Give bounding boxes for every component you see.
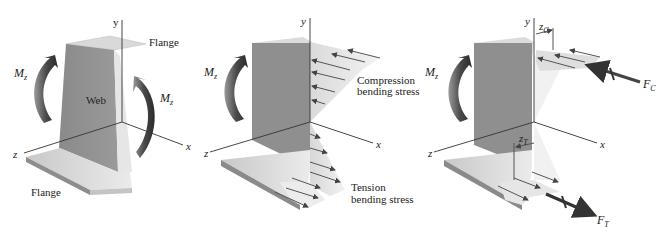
x-axis-label: x	[599, 138, 605, 150]
flange-top-label: Flange	[149, 36, 179, 48]
z-axis-label: z	[203, 147, 209, 159]
fc-force-arrow-icon	[590, 66, 640, 82]
moment-arrow-icon	[224, 55, 248, 122]
bending-stress-diagram: y x z Flange Flange Web Mz Mz	[0, 0, 665, 239]
x-axis-line	[310, 122, 373, 143]
web-block-shape	[252, 43, 310, 168]
moment-left-arrow-icon	[34, 55, 58, 123]
tension-stress-wedge	[310, 122, 345, 196]
ft-force-arrow-icon	[546, 194, 592, 214]
moment-right-label: Mz	[159, 91, 174, 107]
moment-right-arrow-icon	[133, 76, 155, 158]
flange-bottom-label: Flange	[31, 186, 61, 198]
compression-label-line2: bending stress	[357, 85, 420, 97]
stress-region-faint	[534, 55, 565, 180]
web-block-shape	[474, 43, 532, 168]
moment-label: Mz	[424, 65, 439, 81]
x-axis-line	[534, 122, 597, 143]
tension-label-line2: bending stress	[351, 193, 414, 205]
fc-label: FC	[642, 77, 656, 93]
panel-3-labels: y x z Mz zC zT FC FT	[424, 15, 656, 229]
moment-arrow-icon	[448, 55, 472, 122]
x-axis-label: x	[185, 140, 191, 152]
y-axis-label: y	[524, 15, 530, 27]
y-axis-label: y	[113, 16, 119, 28]
x-axis-label: x	[375, 138, 381, 150]
panel-3-beam-geometry	[434, 18, 640, 214]
moment-left-label: Mz	[13, 66, 28, 82]
y-axis-label: y	[300, 15, 306, 27]
tension-label-line1: Tension	[351, 181, 386, 193]
moment-label: Mz	[203, 65, 218, 81]
ft-label: FT	[596, 213, 609, 229]
web-label: Web	[86, 94, 106, 106]
z-axis-label: z	[427, 147, 433, 159]
z-axis-label: z	[12, 148, 18, 160]
